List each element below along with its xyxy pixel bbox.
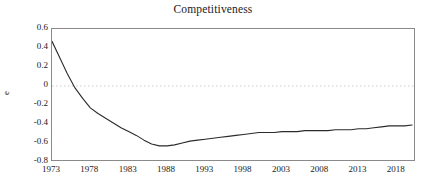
plot-area	[51, 28, 415, 161]
data-series-line	[52, 41, 412, 146]
y-tick-label: 0.2	[2, 60, 48, 70]
x-tick-label: 1983	[108, 164, 148, 174]
x-tick-label: 1993	[184, 164, 224, 174]
x-tick-label: 2008	[299, 164, 339, 174]
x-tick-label: 1978	[69, 164, 109, 174]
x-tick-label: 2003	[261, 164, 301, 174]
y-tick-label: -0.6	[2, 136, 48, 146]
y-tick-label: -0.4	[2, 117, 48, 127]
page-title: Competitiveness	[0, 3, 426, 15]
x-tick-label: 2013	[338, 164, 378, 174]
chart-screenshot: Competitiveness e 0.60.40.20-0.2-0.4-0.6…	[0, 0, 426, 186]
y-tick-label: -0.2	[2, 98, 48, 108]
y-tick-label: 0.6	[2, 22, 48, 32]
x-tick-label: 2018	[376, 164, 416, 174]
line-chart-svg	[52, 29, 416, 162]
y-tick-label: 0.4	[2, 41, 48, 51]
x-tick-label: 1973	[31, 164, 71, 174]
x-axis-tick-labels: 1973197819831988199319982003200820132018	[51, 164, 415, 180]
x-tick-label: 1988	[146, 164, 186, 174]
y-tick-label: 0	[2, 79, 48, 89]
y-axis-tick-labels: 0.60.40.20-0.2-0.4-0.6-0.8	[0, 0, 48, 186]
x-tick-label: 1998	[223, 164, 263, 174]
